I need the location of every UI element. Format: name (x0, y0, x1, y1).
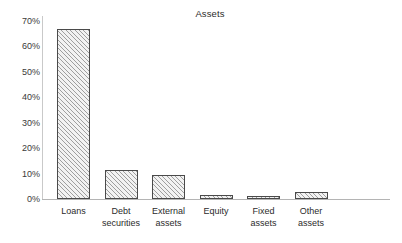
x-axis-label-line: Debt (111, 206, 130, 216)
x-axis-category-labels: LoansDebtsecuritiesExternalassetsEquityF… (0, 202, 402, 243)
x-axis-label-line: Equity (203, 206, 228, 216)
bar-external-assets (152, 175, 185, 199)
x-axis-label-line: Fixed (252, 206, 274, 216)
x-axis-label-line: Other (300, 206, 323, 216)
x-axis-label-line: assets (279, 218, 343, 230)
x-axis-label-line: assets (137, 218, 201, 230)
bar-fixed-assets (247, 196, 280, 199)
x-axis-label-line: Loans (61, 206, 86, 216)
x-axis-label-other-assets: Otherassets (279, 206, 343, 229)
bar-chart: Assets 70%60%50%40%30%20%10%0% LoansDebt… (0, 0, 402, 243)
bar-loans (57, 29, 90, 199)
bar-equity (200, 195, 233, 199)
x-axis-label-line: External (152, 206, 185, 216)
bar-other-assets (295, 192, 328, 199)
bar-debt-securities (105, 170, 138, 199)
